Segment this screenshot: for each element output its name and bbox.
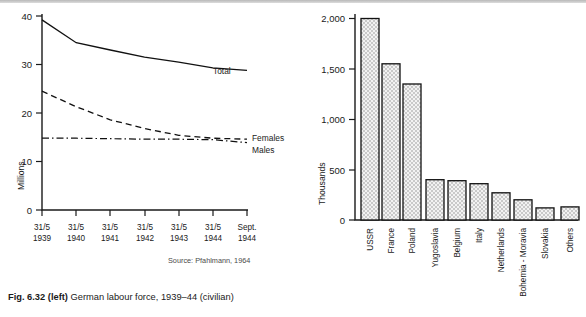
category-label-ussr: USSR xyxy=(366,228,375,251)
left-chart-y-ticks xyxy=(36,16,42,210)
figure-caption-label: Fig. 6.32 (left) xyxy=(8,292,68,302)
left-xtick-label-1-line1: 31/5 xyxy=(68,223,84,232)
left-xtick-label-6-line1: Sept. xyxy=(237,223,256,232)
right-ytick-label-1000: 1,000 xyxy=(321,114,345,125)
category-label-belgium: Belgium xyxy=(453,228,462,258)
category-label-group: USSRFrancePolandYugoslaviaBelgiumItalyNe… xyxy=(366,227,575,297)
left-line-chart: 40 30 20 10 0 Millions 31/5 1939 31/5 xyxy=(0,0,293,300)
right-chart-y-axis-title: Thousands xyxy=(317,162,327,205)
left-xtick-label-6-line2: 1944 xyxy=(238,234,257,243)
right-chart-svg: 2,000 1,500 1,000 500 0 Thousands USSRFr… xyxy=(293,0,586,317)
bar-group xyxy=(361,19,579,221)
left-chart-svg: 40 30 20 10 0 Millions 31/5 1939 31/5 xyxy=(0,0,293,300)
left-chart-y-axis-title: Millions xyxy=(16,161,26,190)
left-chart-source: Source: Pfahlmann, 1964 xyxy=(168,256,250,265)
category-label-yugoslavia: Yugoslavia xyxy=(431,228,440,268)
figure-caption-text: German labour force, 1939–44 (civilian) xyxy=(71,292,234,302)
bar-others xyxy=(561,207,579,220)
bar-netherlands xyxy=(492,193,510,220)
bar-ussr xyxy=(361,19,379,221)
category-label-italy: Italy xyxy=(475,227,484,243)
right-ytick-label-1500: 1,500 xyxy=(321,64,345,75)
left-xtick-label-2-line1: 31/5 xyxy=(102,223,118,232)
bar-yugoslavia xyxy=(426,180,444,220)
left-ytick-label-40: 40 xyxy=(21,11,32,22)
series-label-total: Total xyxy=(213,66,231,76)
left-xtick-label-3-line2: 1942 xyxy=(136,234,155,243)
right-bar-chart: 2,000 1,500 1,000 500 0 Thousands USSRFr… xyxy=(293,0,586,317)
figure-page: 40 30 20 10 0 Millions 31/5 1939 31/5 xyxy=(0,0,586,317)
bar-bohemia-moravia xyxy=(514,200,532,220)
series-line-females xyxy=(42,91,247,139)
left-xtick-label-5-line1: 31/5 xyxy=(205,223,221,232)
left-ytick-label-30: 30 xyxy=(21,59,32,70)
left-chart-axes xyxy=(42,14,248,210)
left-xtick-label-4-line1: 31/5 xyxy=(171,223,187,232)
left-xtick-label-2-line2: 1941 xyxy=(101,234,120,243)
bar-france xyxy=(382,64,400,220)
right-ytick-label-500: 500 xyxy=(329,165,345,176)
series-label-females: Females xyxy=(252,133,284,143)
left-ytick-label-0: 0 xyxy=(27,205,32,216)
left-xtick-label-5-line2: 1944 xyxy=(204,234,223,243)
left-xtick-label-1-line2: 1940 xyxy=(67,234,86,243)
category-label-netherlands: Netherlands xyxy=(497,228,506,272)
left-xtick-label-3-line1: 31/5 xyxy=(137,223,153,232)
series-line-total xyxy=(42,20,247,70)
left-chart-x-ticks xyxy=(42,210,247,216)
left-xtick-label-0-line1: 31/5 xyxy=(34,223,50,232)
series-label-males: Males xyxy=(252,145,274,155)
category-label-slovakia: Slovakia xyxy=(541,228,550,259)
figure-caption: Fig. 6.32 (left) German labour force, 19… xyxy=(8,292,234,302)
category-label-bohemia-moravia: Bohemia - Moravia xyxy=(519,228,528,297)
bar-italy xyxy=(470,184,488,220)
left-chart-x-tick-labels: 31/5 1939 31/5 1940 31/5 1941 31/5 1942 … xyxy=(33,223,257,243)
bar-poland xyxy=(403,84,421,220)
right-chart-y-ticks xyxy=(349,19,355,221)
left-ytick-label-20: 20 xyxy=(21,108,32,119)
category-label-france: France xyxy=(387,228,396,254)
left-xtick-label-4-line2: 1943 xyxy=(170,234,189,243)
right-ytick-label-2000: 2,000 xyxy=(321,13,345,24)
right-ytick-label-0: 0 xyxy=(340,215,345,226)
left-xtick-label-0-line2: 1939 xyxy=(33,234,52,243)
category-label-poland: Poland xyxy=(408,228,417,254)
bar-belgium xyxy=(448,181,466,220)
category-label-others: Others xyxy=(566,228,575,253)
bar-slovakia xyxy=(536,208,554,220)
